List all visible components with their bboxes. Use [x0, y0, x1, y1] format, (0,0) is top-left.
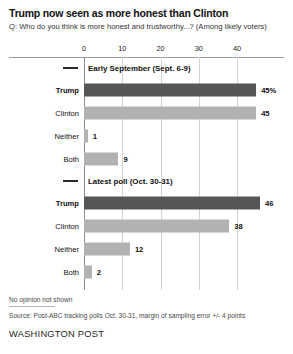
- bar-row-label: Neither: [0, 244, 79, 253]
- bar: [84, 242, 130, 255]
- bar: [84, 152, 118, 165]
- group-header-row: Latest poll (Oct. 30-31): [0, 170, 293, 191]
- bar: [84, 106, 256, 119]
- bar-value-label: 1: [93, 131, 97, 140]
- bar-value-label: 38: [234, 221, 242, 230]
- brand-wordmark: WASHINGTON POST: [9, 329, 289, 339]
- x-tick-label: 10: [118, 44, 126, 53]
- group-title: Early September (Sept. 6-9): [88, 63, 191, 72]
- chart-subtitle: Q: Who do you think is more honest and t…: [9, 22, 267, 31]
- bar-rows: Early September (Sept. 6-9)Trump45%Clint…: [0, 57, 293, 283]
- bar-row-label: Clinton: [0, 108, 79, 117]
- group-marker-dash-icon: [63, 67, 78, 69]
- bar-row-label: Both: [0, 154, 79, 163]
- bar-row-label: Clinton: [0, 221, 79, 230]
- x-tick-label: 30: [195, 44, 203, 53]
- bar-value-label: 45%: [261, 85, 276, 94]
- bar-value-label: 9: [123, 154, 127, 163]
- bar-row: Both9: [0, 147, 293, 170]
- chart-card: Trump now seen as more honest than Clint…: [0, 0, 293, 354]
- bar-row-label: Neither: [0, 131, 79, 140]
- bar: [84, 265, 92, 278]
- page-title: Trump now seen as more honest than Clint…: [9, 7, 228, 19]
- bar: [84, 129, 88, 142]
- bar-row: Neither12: [0, 237, 293, 260]
- bar: [84, 196, 260, 209]
- bar-row: Clinton45: [0, 101, 293, 124]
- bar-row-label: Both: [0, 267, 79, 276]
- chart-footer: No opinion not shown Source: Post-ABC tr…: [9, 296, 289, 339]
- bar-row: Trump45%: [0, 78, 293, 101]
- bar-row: Both2: [0, 260, 293, 283]
- plot-area: 010203040 Early September (Sept. 6-9)Tru…: [0, 44, 293, 290]
- bar-row-label: Trump: [0, 85, 79, 94]
- footnote: No opinion not shown: [9, 296, 289, 303]
- bar-value-label: 12: [135, 244, 143, 253]
- x-tick-label: 20: [156, 44, 164, 53]
- group-title: Latest poll (Oct. 30-31): [88, 176, 173, 185]
- x-axis-tick-labels: 010203040: [0, 44, 293, 56]
- bar-row: Neither1: [0, 124, 293, 147]
- footer-divider: [9, 306, 55, 307]
- bar-row: Trump46: [0, 191, 293, 214]
- bar-value-label: 2: [97, 267, 101, 276]
- bar-row-label: Trump: [0, 198, 79, 207]
- x-tick-label: 0: [82, 44, 86, 53]
- bar: [84, 83, 256, 96]
- bar-value-label: 46: [265, 198, 273, 207]
- bar-value-label: 45: [261, 108, 269, 117]
- source-line: Source: Post-ABC tracking polls Oct. 30-…: [9, 312, 289, 319]
- bar-row: Clinton38: [0, 214, 293, 237]
- group-marker-dash-icon: [63, 180, 78, 182]
- bar: [84, 219, 229, 232]
- group-header-row: Early September (Sept. 6-9): [0, 57, 293, 78]
- x-tick-label: 40: [233, 44, 241, 53]
